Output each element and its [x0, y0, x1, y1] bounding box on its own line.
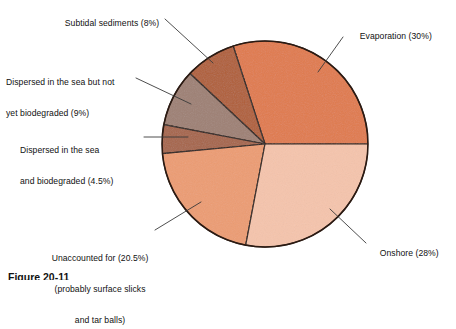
- slice-label-dispersed-not-line1: Dispersed in the sea but not: [6, 77, 114, 87]
- slice-label-dispersed-bio-line2: and biodegraded (4.5%): [20, 176, 113, 186]
- slice-label-unaccounted-line1: Unaccounted for (20.5%): [24, 253, 176, 263]
- pie-slice-onshore[interactable]: [246, 144, 368, 247]
- slice-label-dispersed-not-line2: yet biodegraded (9%): [6, 108, 114, 118]
- slice-label-dispersed-and-biodegraded: Dispersed in the sea and biodegraded (4.…: [20, 124, 113, 207]
- figure-caption: Figure 20-11: [8, 271, 69, 280]
- slice-label-onshore-text: Onshore (28%): [380, 248, 439, 258]
- slice-label-subtidal-sediments-text: Subtidal sediments (8%): [65, 18, 159, 28]
- leader-line-subtidal: [165, 19, 213, 63]
- slice-label-evaporation-text: Evaporation (30%): [360, 31, 432, 41]
- slice-label-subtidal-sediments: Subtidal sediments (8%): [55, 8, 159, 39]
- slice-label-evaporation: Evaporation (30%): [350, 21, 432, 52]
- slice-label-unaccounted-line2: (probably surface slicks: [24, 284, 176, 294]
- slice-label-onshore: Onshore (28%): [370, 238, 439, 269]
- slice-label-unaccounted-for: Unaccounted for (20.5%) (probably surfac…: [24, 232, 176, 329]
- leader-line-onshore: [330, 209, 366, 243]
- slice-label-dispersed-bio-line1: Dispersed in the sea: [20, 145, 113, 155]
- slice-label-unaccounted-line3: and tar balls): [24, 315, 176, 325]
